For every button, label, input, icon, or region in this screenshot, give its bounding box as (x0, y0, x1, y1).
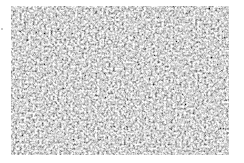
noise-texture-image (11, 6, 229, 155)
stray-mark (1, 28, 3, 30)
noise-texture (11, 6, 229, 155)
